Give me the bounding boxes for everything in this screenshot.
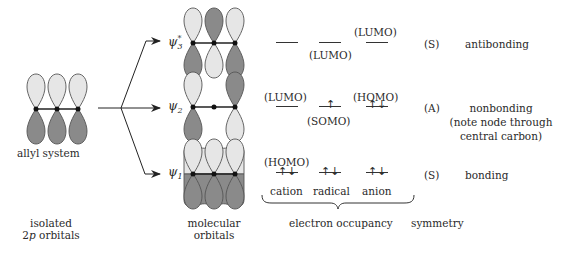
psi2-radical-tag: (SOMO) (307, 115, 350, 127)
psi2-note-line1: (note node through (445, 116, 557, 128)
psi1-cation-electrons: ↑↓ (278, 166, 296, 177)
psi2-description-block: nonbonding (note node through central ca… (445, 102, 557, 142)
psi1-description: bonding (465, 169, 508, 181)
psi3-level-anion (366, 42, 388, 43)
psi2-description: nonbonding (445, 102, 557, 114)
psi3-radical-tag: (LUMO) (309, 49, 352, 61)
column-cation: cation (270, 185, 303, 197)
psi1-symmetry: (S) (424, 169, 439, 181)
psi2-level-cation (276, 106, 298, 107)
psi2-cation-tag: (LUMO) (264, 91, 307, 103)
symmetry-caption: symmetry (411, 217, 464, 229)
psi2-note-line2: central carbon) (445, 130, 557, 142)
column-radical: radical (313, 185, 350, 197)
psi3-description: antibonding (465, 38, 529, 50)
psi2-anion-tag: (HOMO) (353, 91, 398, 103)
psi2-label: ψ2 (168, 100, 183, 117)
isolated-orbitals-caption: isolated 2p orbitals (20, 217, 82, 241)
splitting-arrows (98, 41, 160, 174)
psi1-anion-electrons: ↑↓ (368, 166, 386, 177)
psi3-level-radical (319, 42, 341, 43)
psi3-anion-tag: (LUMO) (354, 26, 397, 38)
caption-line1: isolated (20, 217, 82, 229)
caption-line2: 2p orbitals (20, 229, 82, 241)
occupancy-brace (262, 195, 414, 209)
psi1-radical-electrons: ↑↓ (321, 166, 339, 177)
molecular-orbitals-caption: molecular orbitals (186, 217, 242, 241)
psi3-label: ψ3* (168, 33, 187, 53)
psi2-symmetry: (A) (424, 102, 440, 114)
allyl-system-label: allyl system (17, 147, 80, 159)
psi1-label: ψ1 (168, 166, 183, 183)
psi3-level-cation (276, 42, 298, 43)
column-anion: anion (362, 185, 391, 197)
psi3-symmetry: (S) (424, 38, 439, 50)
psi2-radical-electrons: ↑ (326, 99, 335, 110)
electron-occupancy-caption: electron occupancy (289, 217, 393, 229)
